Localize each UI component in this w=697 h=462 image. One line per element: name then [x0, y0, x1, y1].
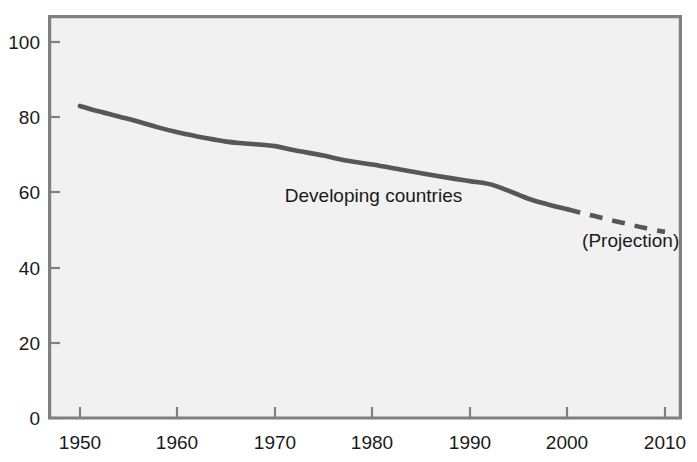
x-tick-label-1980: 1980 [351, 432, 393, 453]
x-axis-tick-labels: 1950 1960 1970 1980 1990 2000 2010 [59, 432, 686, 453]
plot-area-background [48, 15, 682, 418]
y-tick-label-20: 20 [19, 333, 40, 354]
projection-label: (Projection) [582, 230, 679, 251]
y-tick-label-40: 40 [19, 258, 40, 279]
x-tick-label-1970: 1970 [254, 432, 296, 453]
x-tick-label-1990: 1990 [449, 432, 491, 453]
y-tick-label-80: 80 [19, 107, 40, 128]
y-tick-label-0: 0 [29, 408, 40, 429]
x-tick-label-2000: 2000 [546, 432, 588, 453]
x-tick-label-1950: 1950 [59, 432, 101, 453]
y-tick-label-100: 100 [8, 32, 40, 53]
y-axis-tick-labels: 0 20 40 60 80 100 [8, 32, 40, 429]
y-tick-label-60: 60 [19, 182, 40, 203]
chart-container: 0 20 40 60 80 100 1950 1960 1970 1980 19… [0, 0, 697, 462]
x-tick-label-1960: 1960 [156, 432, 198, 453]
series-label-developing-countries: Developing countries [285, 185, 462, 206]
line-chart: 0 20 40 60 80 100 1950 1960 1970 1980 19… [0, 0, 697, 462]
x-tick-label-2010: 2010 [644, 432, 686, 453]
